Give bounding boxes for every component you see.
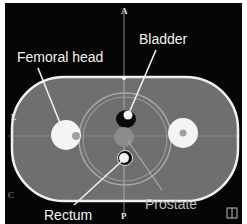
label-femoral-head: Femoral head [17, 50, 103, 64]
anterior-marker-dot [122, 76, 126, 80]
femoral-head-left-insert [180, 130, 187, 137]
label-rectum: Rectum [44, 208, 92, 222]
femoral-head-right-insert [72, 132, 80, 140]
orientation-corner: C [8, 191, 14, 200]
orientation-left: L [11, 114, 16, 122]
orientation-posterior: P [121, 212, 127, 221]
book-icon [227, 208, 237, 218]
ct-slice-graphic [5, 3, 242, 224]
orientation-anterior: A [121, 7, 128, 16]
bladder-marker [124, 111, 133, 120]
prostate [114, 127, 134, 147]
ct-image-viewport: A P L C Femoral head Bladder Rectum Pros… [5, 3, 242, 224]
label-bladder: Bladder [139, 32, 187, 46]
label-prostate: Prostate [145, 197, 197, 211]
